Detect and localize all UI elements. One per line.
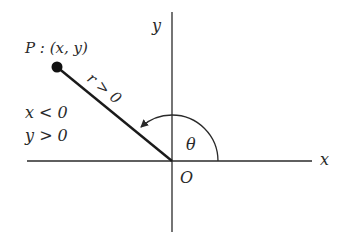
diagram-canvas: y x O θ P : (x, y) r > 0 x < 0 y > 0: [0, 0, 351, 239]
theta-label: θ: [186, 135, 196, 154]
point-p-label: P : (x, y): [24, 39, 88, 57]
y-axis-label: y: [151, 16, 162, 35]
radius-label: r > 0: [83, 69, 125, 108]
angle-theta-arc: [141, 115, 218, 161]
x-condition-label: x < 0: [25, 103, 68, 122]
x-axis-label: x: [320, 150, 329, 169]
radius-segment: [57, 67, 172, 161]
point-p-marker: [52, 62, 63, 73]
y-condition-label: y > 0: [24, 126, 68, 145]
origin-label: O: [180, 168, 193, 187]
